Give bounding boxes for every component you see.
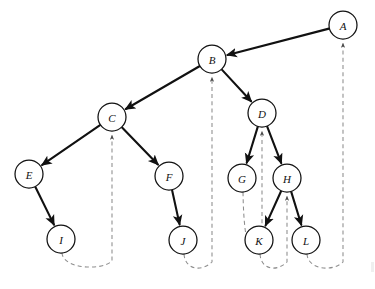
node-label-k: K bbox=[254, 235, 263, 247]
tree-edge-b-to-c bbox=[126, 66, 200, 109]
node-label-h: H bbox=[282, 173, 292, 185]
node-g[interactable]: G bbox=[228, 164, 256, 192]
node-l[interactable]: L bbox=[292, 226, 320, 254]
node-label-l: L bbox=[302, 235, 309, 247]
node-label-c: C bbox=[108, 112, 116, 124]
tree-edge-h-to-l bbox=[291, 192, 301, 225]
node-c[interactable]: C bbox=[98, 103, 126, 131]
node-j[interactable]: J bbox=[169, 226, 197, 254]
node-label-b: B bbox=[209, 54, 216, 66]
node-label-d: D bbox=[257, 108, 266, 120]
tree-edge-c-to-f bbox=[122, 127, 158, 164]
node-label-e: E bbox=[25, 169, 33, 181]
tree-edge-d-to-g bbox=[247, 127, 258, 163]
node-h[interactable]: H bbox=[273, 164, 301, 192]
tree-edge-layer bbox=[35, 29, 329, 226]
tree-edge-h-to-k bbox=[266, 191, 281, 225]
tree-edge-f-to-j bbox=[172, 190, 179, 224]
tree-edge-d-to-h bbox=[267, 127, 281, 164]
node-a[interactable]: A bbox=[329, 11, 357, 39]
node-layer: ABCDEFGHIJKL bbox=[15, 11, 357, 254]
node-label-a: A bbox=[339, 20, 347, 32]
node-e[interactable]: E bbox=[15, 160, 43, 188]
diagram-canvas: ABCDEFGHIJKL bbox=[0, 0, 375, 289]
node-d[interactable]: D bbox=[248, 99, 276, 127]
tree-edge-b-to-d bbox=[222, 70, 251, 102]
tree-edge-e-to-i bbox=[35, 187, 54, 225]
node-k[interactable]: K bbox=[245, 226, 273, 254]
tree-edge-c-to-e bbox=[42, 125, 100, 165]
node-f[interactable]: F bbox=[155, 162, 183, 190]
scan-artifact-mark bbox=[371, 262, 374, 272]
node-i[interactable]: I bbox=[47, 225, 75, 253]
node-label-f: F bbox=[165, 171, 173, 183]
node-label-g: G bbox=[238, 173, 246, 185]
node-b[interactable]: B bbox=[198, 45, 226, 73]
dfs-tree-diagram: ABCDEFGHIJKL bbox=[0, 0, 375, 289]
tree-edge-a-to-b bbox=[227, 29, 328, 55]
